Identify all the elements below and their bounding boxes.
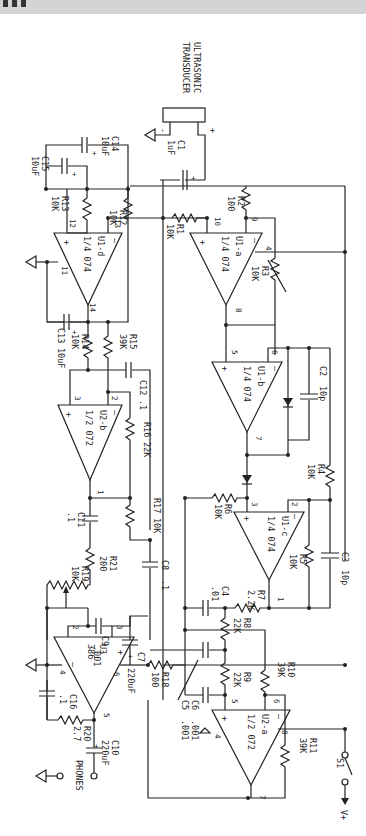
svg-text:6: 6 [112, 672, 121, 677]
svg-text:7: 7 [254, 436, 263, 441]
svg-text:.1: .1 [160, 580, 170, 590]
svg-text:C9: C9 [100, 636, 110, 646]
svg-text:U1-b: U1-b [256, 366, 266, 386]
svg-text:5: 5 [230, 699, 239, 704]
svg-text:8: 8 [234, 308, 243, 313]
svg-text:10K: 10K [288, 554, 298, 570]
resistor-r15: R15 39K [104, 322, 138, 392]
capacitor-c5: C5 .001 [150, 642, 225, 740]
svg-text:C10: C10 [110, 740, 120, 755]
svg-text:—: — [250, 238, 260, 244]
svg-text:R9: R9 [242, 672, 252, 682]
svg-text:10K: 10K [152, 518, 162, 534]
svg-text:S1: S1 [335, 758, 345, 768]
svg-text:10uF: 10uF [30, 156, 40, 176]
svg-text:.1: .1 [66, 512, 76, 522]
resistor-r17: R17 10K [126, 498, 162, 540]
svg-text:1/2 072: 1/2 072 [84, 410, 94, 446]
svg-text:U2-b: U2-b [98, 410, 108, 430]
svg-text:.01: .01 [210, 586, 220, 601]
diode-feedback [283, 348, 293, 455]
svg-text:10K: 10K [50, 196, 60, 212]
svg-text:1/2 072: 1/2 072 [246, 714, 256, 750]
phones-output: PHONES [36, 760, 97, 791]
svg-text:C7: C7 [136, 652, 146, 662]
svg-text:10K: 10K [70, 566, 80, 582]
resistor-r8: R8 22K [221, 608, 252, 650]
svg-text:39K: 39K [118, 334, 128, 350]
svg-text:3: 3 [250, 502, 259, 507]
svg-text:C2: C2 [318, 366, 328, 376]
svg-text:R8: R8 [242, 618, 252, 628]
phones-label: PHONES [74, 760, 84, 791]
svg-text:C15: C15 [40, 156, 50, 171]
svg-text:100: 100 [150, 672, 160, 687]
svg-text:R11: R11 [308, 738, 318, 753]
capacitor-c1: C1 1uF + [160, 140, 205, 190]
opamp-u2a: U2-a 1/2 072 + — 5 6 7 8 4 [200, 695, 345, 800]
svg-text:+: + [116, 650, 126, 655]
resistor-r11: R11 39K [248, 735, 318, 798]
svg-text:22K: 22K [142, 442, 152, 458]
resistor-r6: R6 10K [185, 494, 247, 520]
svg-text:1/4 074: 1/4 074 [82, 236, 92, 272]
svg-text:200: 200 [98, 556, 108, 571]
svg-text:R12: R12 [118, 210, 128, 225]
resistor-r10: R10 39K [261, 662, 296, 695]
svg-text:C16: C16 [68, 694, 78, 709]
svg-text:10K: 10K [108, 210, 118, 226]
svg-text:.1: .1 [58, 694, 68, 704]
svg-text:6: 6 [272, 699, 281, 704]
svg-text:2: 2 [110, 396, 119, 401]
svg-text:10: 10 [213, 217, 222, 227]
svg-text:R15: R15 [128, 334, 138, 349]
svg-text:C12: C12 [138, 380, 148, 395]
svg-text:4: 4 [58, 670, 67, 675]
svg-text:R4: R4 [316, 464, 326, 474]
svg-text:+: + [70, 172, 79, 177]
svg-text:+: + [220, 716, 230, 721]
svg-text:1uF: 1uF [166, 140, 176, 155]
svg-text:—: — [274, 714, 284, 720]
svg-text:C6: C6 [190, 700, 200, 710]
svg-text:—: — [110, 410, 120, 416]
svg-text:.001: .001 [180, 720, 190, 740]
svg-text:100: 100 [226, 196, 236, 211]
svg-text:10K: 10K [213, 504, 223, 520]
svg-text:C11: C11 [76, 512, 86, 527]
svg-text:5: 5 [102, 713, 111, 718]
svg-text:+: + [208, 128, 218, 133]
svg-text:10uF: 10uF [56, 348, 66, 368]
svg-text:220uF: 220uF [100, 740, 110, 766]
svg-text:C8: C8 [160, 560, 170, 570]
schematic: ULTRASONIC TRANSDUCER - + C1 1uF + U1-a … [0, 0, 366, 836]
svg-text:+: + [126, 654, 135, 659]
svg-text:10K: 10K [306, 464, 316, 480]
svg-text:—: — [68, 662, 78, 668]
svg-text:R7: R7 [256, 590, 266, 600]
svg-text:4: 4 [264, 246, 273, 251]
svg-text:R3: R3 [260, 266, 270, 276]
svg-text:2: 2 [290, 502, 299, 507]
capacitor-c16: C16 .1 [39, 680, 78, 720]
svg-text:+: + [92, 744, 101, 749]
capacitor-c12: C12 .1 [88, 362, 150, 530]
vplus-label: V+ [339, 810, 349, 820]
resistor-r20: R20 2.7 [47, 716, 94, 741]
ground-icon [26, 256, 47, 268]
svg-text:22K: 22K [232, 618, 242, 634]
svg-text:R5: R5 [298, 554, 308, 564]
svg-text:R10: R10 [286, 662, 296, 677]
resistor-r2: R2 100 [226, 186, 250, 218]
svg-text:R17: R17 [152, 498, 162, 513]
svg-text:+: + [64, 412, 74, 417]
svg-text:10uF: 10uF [100, 136, 110, 156]
svg-text:C5: C5 [180, 700, 190, 710]
svg-text:C14: C14 [110, 136, 120, 151]
svg-text:10p: 10p [318, 386, 328, 401]
transducer-label-2: TRANSDUCER [181, 42, 191, 94]
ultrasonic-transducer: ULTRASONIC TRANSDUCER - + [145, 42, 218, 180]
svg-text:R1: R1 [175, 224, 185, 234]
capacitor-c15: + C15 10uF [30, 156, 87, 189]
resistor-r9: R9 22K [221, 650, 252, 695]
